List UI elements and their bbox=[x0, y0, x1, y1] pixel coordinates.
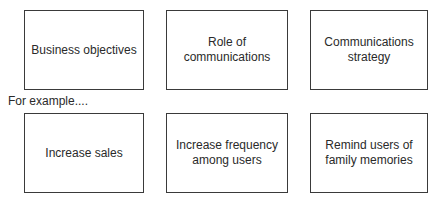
box-label: Role of communications bbox=[184, 35, 271, 65]
box-remind-users: Remind users of family memories bbox=[310, 113, 428, 193]
example-label: For example.... bbox=[8, 94, 88, 108]
box-increase-sales: Increase sales bbox=[24, 113, 144, 193]
box-label: Remind users of family memories bbox=[325, 138, 412, 168]
box-role-of-communications: Role of communications bbox=[166, 10, 288, 90]
box-label: Business objectives bbox=[31, 43, 136, 58]
box-communications-strategy: Communications strategy bbox=[310, 10, 428, 90]
box-label: Communications strategy bbox=[324, 35, 413, 65]
box-business-objectives: Business objectives bbox=[24, 10, 144, 90]
box-label: Increase frequency among users bbox=[176, 138, 278, 168]
box-label: Increase sales bbox=[45, 146, 122, 161]
box-increase-frequency: Increase frequency among users bbox=[166, 113, 288, 193]
